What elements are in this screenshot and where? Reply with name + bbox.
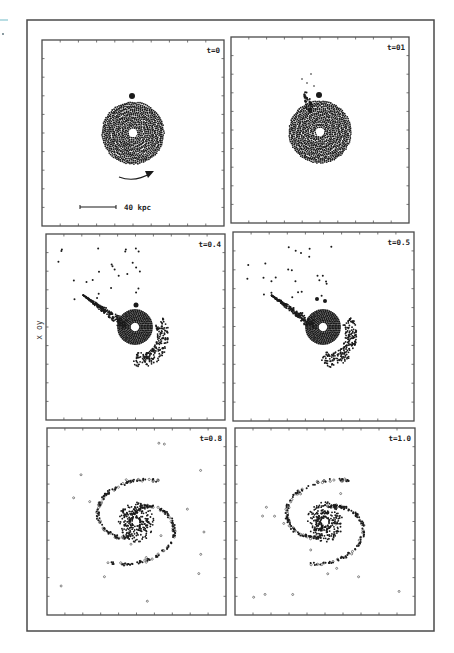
time-label: t=1.0 <box>388 434 411 443</box>
scale-bar-label: 40 kpc <box>124 203 151 212</box>
figure-canvas: t=040 kpct=01t=0.4t=0.5t=0.8t=1.0 <box>0 0 454 653</box>
time-label: t=0.5 <box>387 238 410 247</box>
panel-2: t=01 <box>231 37 409 223</box>
time-label: t=0.4 <box>198 240 221 249</box>
panel-4: t=0.5 <box>233 232 414 421</box>
panel-3: t=0.4 <box>46 234 225 420</box>
time-label: t=0.8 <box>199 434 222 443</box>
panel-5: t=0.8 <box>47 428 226 615</box>
panels-group: t=040 kpct=01t=0.4t=0.5t=0.8t=1.0 <box>42 37 415 615</box>
scan-artifact <box>2 33 4 35</box>
time-label: t=0 <box>206 46 220 55</box>
y-axis-label: x oy <box>30 320 50 340</box>
simulation-figure: t=040 kpct=01t=0.4t=0.5t=0.8t=1.0 x oy <box>0 0 454 653</box>
panel-6: t=1.0 <box>235 428 415 615</box>
time-label: t=01 <box>387 43 406 52</box>
panel-1: t=040 kpc <box>42 40 224 226</box>
scan-artifact <box>0 19 8 21</box>
